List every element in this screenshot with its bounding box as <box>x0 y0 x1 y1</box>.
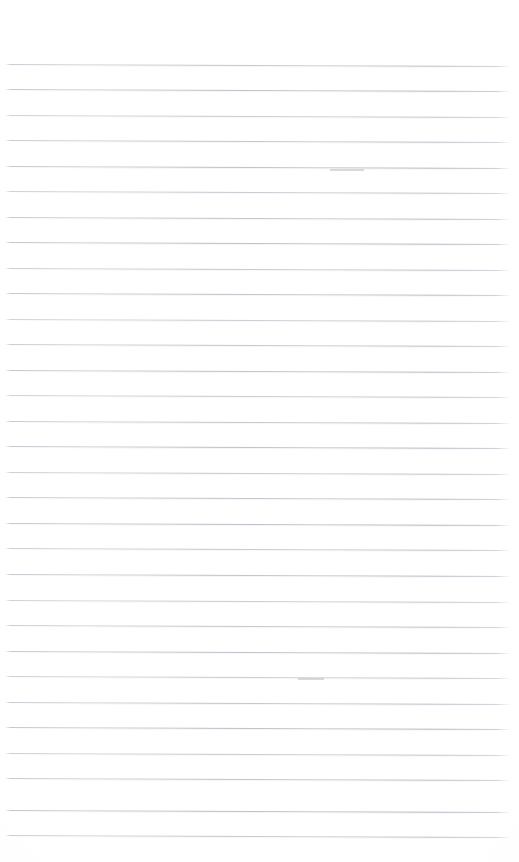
ruled-line <box>5 523 511 526</box>
ruled-line <box>5 810 511 813</box>
ruled-line <box>5 115 511 118</box>
ruled-line <box>5 421 511 424</box>
ruled-line <box>5 319 511 322</box>
ruled-line <box>5 293 511 296</box>
ruled-line <box>5 497 511 500</box>
ruled-line <box>5 64 511 67</box>
ruled-line <box>5 217 511 220</box>
ruled-line <box>5 625 511 628</box>
ruled-line <box>5 753 511 756</box>
ruled-line <box>5 395 511 398</box>
ruled-line <box>5 268 511 271</box>
ruled-line <box>5 778 511 781</box>
ruled-line <box>5 166 511 169</box>
ruled-line <box>5 727 511 730</box>
ruled-line <box>5 242 511 245</box>
ruled-line <box>5 344 511 347</box>
ruled-line <box>5 472 511 475</box>
ruled-line <box>5 651 511 654</box>
ruled-line <box>5 370 511 373</box>
ruled-line <box>5 548 511 551</box>
ruled-line <box>5 140 511 143</box>
ruled-line <box>5 574 511 577</box>
ruled-line <box>5 89 511 92</box>
notepad-page <box>0 0 519 862</box>
ruled-line <box>5 702 511 705</box>
ruled-line <box>5 191 511 194</box>
ruled-line <box>5 676 511 679</box>
ruled-line <box>5 600 511 603</box>
ruled-lines-layer <box>0 0 519 862</box>
ruled-line <box>5 446 511 449</box>
ruled-line <box>5 835 511 838</box>
